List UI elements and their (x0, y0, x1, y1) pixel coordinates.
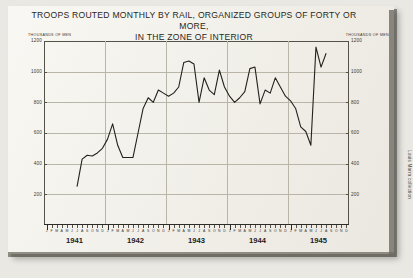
y-tick-label-l-1000: 1000 (31, 69, 42, 74)
year-label-1944: 1944 (227, 236, 288, 245)
month-tick (250, 225, 251, 228)
y-axis-label-right: THOUSANDS OF MEN (346, 33, 389, 37)
y-tick-label-l-200: 200 (34, 192, 42, 197)
month-tick (133, 225, 134, 228)
year-label-1943: 1943 (166, 236, 227, 245)
month-tick (270, 225, 271, 228)
month-tick (285, 225, 286, 228)
month-tick (331, 225, 332, 228)
month-tick (204, 225, 205, 228)
month-tick (128, 225, 129, 228)
month-tick (123, 225, 124, 228)
month-tick (179, 225, 180, 228)
year-label-1945: 1945 (288, 236, 349, 245)
month-tick (341, 225, 342, 228)
month-tick (77, 225, 78, 228)
month-tick (163, 225, 164, 228)
month-tick (311, 225, 312, 228)
y-tick-label-r-1000: 1000 (351, 69, 362, 74)
paper-shadow-right (389, 10, 394, 256)
month-tick (92, 225, 93, 228)
month-tick (275, 225, 276, 228)
month-tick (184, 225, 185, 228)
month-tick (336, 225, 337, 228)
data-series-line (44, 41, 349, 225)
month-tick (306, 225, 307, 228)
paper-shadow-bottom (8, 252, 396, 257)
month-tick (62, 225, 63, 228)
y-tick-label-l-800: 800 (34, 100, 42, 105)
month-tick (138, 225, 139, 228)
month-tick (219, 225, 220, 228)
collection-credit: Louis Marra collection (407, 150, 412, 199)
month-tick (158, 225, 159, 228)
month-tick (102, 225, 103, 228)
month-tick (214, 225, 215, 228)
month-tick (67, 225, 68, 228)
month-tick (224, 225, 225, 228)
month-tick (265, 225, 266, 228)
month-tick (82, 225, 83, 228)
month-tick (148, 225, 149, 228)
month-tick (255, 225, 256, 228)
month-tick (72, 225, 73, 228)
month-tick (209, 225, 210, 228)
month-tick (280, 225, 281, 228)
y-tick-label-r-1200: 1200 (351, 38, 362, 43)
month-tick (296, 225, 297, 228)
month-tick (301, 225, 302, 228)
month-tick (321, 225, 322, 228)
chart-title-line1: TROOPS ROUTED MONTHLY BY RAIL, ORGANIZED… (32, 10, 357, 31)
month-tick (57, 225, 58, 228)
month-tick (87, 225, 88, 228)
month-tick (245, 225, 246, 228)
year-label-1942: 1942 (105, 236, 166, 245)
chart-title: TROOPS ROUTED MONTHLY BY RAIL, ORGANIZED… (24, 10, 364, 43)
y-axis-label-left: THOUSANDS OF MEN (28, 33, 71, 37)
y-tick-label-r-200: 200 (351, 192, 359, 197)
series-polyline (77, 47, 326, 187)
month-tick (113, 225, 114, 228)
month-tick (235, 225, 236, 228)
month-tick (346, 225, 347, 228)
month-tick (97, 225, 98, 228)
year-label-1941: 1941 (44, 236, 105, 245)
screenshot-root: TROOPS ROUTED MONTHLY BY RAIL, ORGANIZED… (0, 0, 413, 278)
y-tick-label-r-800: 800 (351, 100, 359, 105)
y-tick-label-r-600: 600 (351, 130, 359, 135)
y-tick-label-l-1200: 1200 (31, 38, 42, 43)
month-tick (199, 225, 200, 228)
month-tick (174, 225, 175, 228)
y-tick-label-r-400: 400 (351, 161, 359, 166)
y-tick-label-l-400: 400 (34, 161, 42, 166)
month-tick (118, 225, 119, 228)
month-tick (153, 225, 154, 228)
month-tick (326, 225, 327, 228)
month-tick (189, 225, 190, 228)
month-tick (194, 225, 195, 228)
month-tick (52, 225, 53, 228)
month-tick (143, 225, 144, 228)
month-label: D (343, 229, 349, 233)
month-tick (240, 225, 241, 228)
plot-area: 1200120010001000800800600600400400200200 (44, 41, 349, 225)
month-tick (260, 225, 261, 228)
month-tick (316, 225, 317, 228)
month-ruler: JFMAMJJASONDJFMAMJJASONDJFMAMJJASONDJFMA… (44, 225, 349, 235)
y-tick-label-l-600: 600 (34, 130, 42, 135)
